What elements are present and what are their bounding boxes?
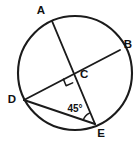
point-label-b: B [124, 38, 132, 50]
chord-db [24, 50, 120, 100]
angle-arc-at-e [83, 113, 89, 120]
point-label-e: E [97, 127, 105, 139]
point-label-c: C [80, 68, 88, 80]
angle-label-45: 45° [67, 103, 82, 114]
circle-chords-diagram: A B C D E 45° [0, 0, 140, 142]
point-label-d: D [8, 93, 16, 105]
geometry-figure: A B C D E 45° [0, 0, 140, 142]
right-angle-marker-at-c [63, 79, 72, 86]
point-label-a: A [37, 4, 45, 16]
